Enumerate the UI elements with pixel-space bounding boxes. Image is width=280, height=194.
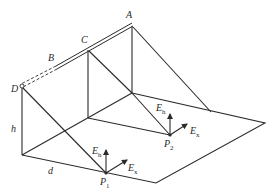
conductor-dashed-segment — [21, 66, 57, 87]
conductor-geometry-diagram — [0, 0, 280, 194]
label-ex1: Ex — [128, 163, 138, 176]
label-ex2: Ex — [190, 126, 200, 139]
label-p1: P1 — [100, 177, 110, 190]
conductor-solid-segment — [56, 23, 133, 69]
label-b: B — [48, 53, 54, 63]
label-h: h — [11, 124, 16, 134]
ex2-arrow — [170, 124, 187, 135]
label-eh1: Eh — [92, 146, 102, 159]
diagonal-c-afoot — [89, 51, 132, 93]
label-c: C — [81, 35, 88, 45]
point-d-marker — [20, 84, 24, 88]
ex1-arrow — [106, 160, 127, 173]
label-d-distance: d — [48, 166, 53, 176]
line-cfoot-p2 — [88, 118, 170, 135]
label-eh2: Eh — [156, 103, 166, 116]
diagonal-a-ground — [133, 27, 211, 112]
label-a: A — [126, 10, 132, 20]
label-p2: P2 — [164, 139, 174, 152]
label-d: D — [11, 84, 18, 94]
